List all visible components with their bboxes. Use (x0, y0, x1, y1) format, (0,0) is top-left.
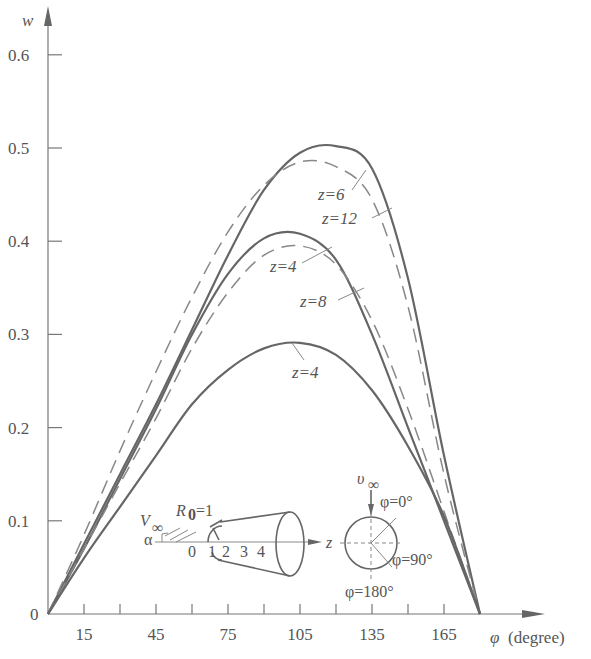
inset-cone-top (220, 512, 290, 522)
inset-z-label: z (325, 534, 333, 551)
inset-vinf-label: V (140, 512, 152, 529)
x-tick-label: 15 (76, 625, 93, 644)
x-ticks: 154575105135165 (76, 604, 457, 644)
inset-radial-line-1 (371, 518, 396, 543)
inset-num-0: 0 (188, 543, 196, 560)
inset-num-3: 3 (240, 543, 248, 560)
curve-z-4-lower- (48, 343, 480, 614)
inset-r0-value: =1 (196, 502, 213, 519)
inset-cone-base (276, 512, 304, 576)
leader-z4-low (292, 343, 304, 360)
x-tick-label: 165 (431, 625, 457, 644)
label-z4-low: z=4 (291, 363, 319, 382)
label-z6: z=6 (317, 185, 345, 204)
y-tick-label: 0.6 (8, 46, 29, 65)
inset-cross-section: υ ∞ φ=0° φ=90° φ=180° (340, 470, 433, 601)
inset-v-label: υ (357, 470, 364, 487)
x-axis-arrow-icon (522, 610, 545, 618)
inset-velocity-arrowhead-icon (368, 504, 374, 516)
inset-num-2: 2 (222, 543, 230, 560)
inset-nose-arc-top (208, 526, 222, 542)
y-tick-label: 0 (30, 605, 39, 624)
curve-labels: z=6 z=12 z=4 z=8 z=4 (269, 170, 392, 382)
inset-v-sub: ∞ (368, 476, 379, 493)
label-z8: z=8 (299, 292, 327, 311)
x-tick-label: 135 (359, 625, 385, 644)
x-axis-unit: (degree) (508, 628, 565, 647)
y-tick-label: 0.5 (8, 139, 29, 158)
x-tick-label: 75 (220, 625, 237, 644)
inset-phi0-label: φ=0° (380, 493, 413, 511)
y-axis-label: w (22, 11, 34, 30)
inset-alpha-label: α (144, 531, 153, 548)
inset-phi180-label: φ=180° (345, 583, 394, 601)
x-tick-label: 105 (287, 625, 313, 644)
inset-cone-diagram: V ∞ α R 0 =1 0 1 2 3 4 z (140, 502, 333, 576)
inset-vinf-sub: ∞ (152, 519, 163, 536)
inset-num-4: 4 (257, 543, 265, 560)
inset-phi90-label: φ=90° (392, 551, 433, 569)
y-ticks: 00.10.20.30.40.50.6 (8, 46, 62, 624)
inset-z-arrow-icon (308, 539, 322, 545)
y-tick-label: 0.3 (8, 325, 29, 344)
inset-flow-arrow-3 (176, 532, 196, 542)
label-z4-mid: z=4 (269, 257, 297, 276)
leader-z4-mid (302, 247, 332, 263)
inset-radius-line (213, 528, 219, 540)
y-axis-arrow-icon (44, 6, 52, 26)
y-tick-label: 0.4 (8, 232, 30, 251)
inset-flow-arrow-1 (165, 528, 180, 536)
y-tick-label: 0.1 (8, 512, 29, 531)
inset-r0-label: R (175, 502, 186, 519)
inset-num-1: 1 (208, 543, 216, 560)
x-tick-label: 45 (148, 625, 165, 644)
inset-radial-line-2 (371, 543, 392, 567)
axes: 00.10.20.30.40.50.6 154575105135165 w φ … (8, 6, 565, 647)
label-z12: z=12 (321, 209, 358, 228)
x-axis-symbol: φ (490, 628, 499, 647)
y-tick-label: 0.2 (8, 419, 29, 438)
chart: 00.10.20.30.40.50.6 154575105135165 w φ … (0, 0, 591, 659)
inset-r0-sub: 0 (188, 506, 196, 523)
